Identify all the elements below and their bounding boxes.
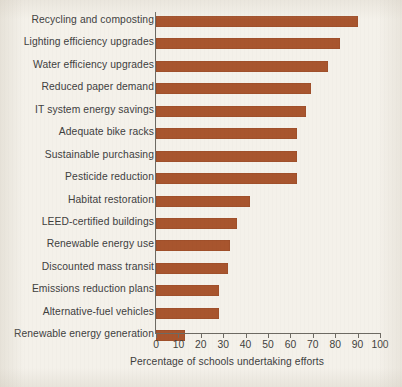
bar-track	[156, 263, 396, 274]
x-axis-tick	[290, 334, 291, 338]
bar-row: IT system energy savings	[0, 104, 402, 126]
bar	[156, 263, 228, 274]
bar-track	[156, 218, 396, 229]
bar	[156, 285, 219, 296]
category-label: Reduced paper demand	[4, 81, 154, 92]
x-axis-tick	[313, 334, 314, 338]
x-axis-tick	[178, 334, 179, 338]
category-label: Renewable energy use	[4, 238, 154, 249]
bar-row: Renewable energy use	[0, 238, 402, 260]
bar-track	[156, 151, 396, 162]
category-label: LEED-certified buildings	[4, 216, 154, 227]
category-label: Recycling and composting	[4, 14, 154, 25]
category-label: Discounted mass transit	[4, 261, 154, 272]
bar-row: Discounted mass transit	[0, 261, 402, 283]
bar	[156, 83, 311, 94]
category-label: Water efficiency upgrades	[4, 59, 154, 70]
x-axis-tick	[380, 334, 381, 338]
bar-row: Reduced paper demand	[0, 81, 402, 103]
category-label: Emissions reduction plans	[4, 283, 154, 294]
bar	[156, 308, 219, 319]
bar-row: Alternative-fuel vehicles	[0, 306, 402, 328]
bar	[156, 106, 306, 117]
bar	[156, 61, 328, 72]
bar-row: Lighting efficiency upgrades	[0, 36, 402, 58]
bar	[156, 196, 250, 207]
bar-row: Sustainable purchasing	[0, 149, 402, 171]
category-label: Pesticide reduction	[4, 171, 154, 182]
bar	[156, 38, 340, 49]
bar-track	[156, 61, 396, 72]
x-axis-title: Percentage of schools undertaking effort…	[0, 356, 402, 367]
bar-row: Pesticide reduction	[0, 171, 402, 193]
bar-row: Water efficiency upgrades	[0, 59, 402, 81]
bar-track	[156, 308, 396, 319]
bar-track	[156, 173, 396, 184]
x-axis-tick	[246, 334, 247, 338]
bar-row: Adequate bike racks	[0, 126, 402, 148]
x-axis-tick	[201, 334, 202, 338]
bar-track	[156, 83, 396, 94]
category-label: Alternative-fuel vehicles	[4, 306, 154, 317]
x-axis-tick-label: 100	[360, 339, 400, 351]
bar-track	[156, 285, 396, 296]
bar	[156, 240, 230, 251]
x-axis-tick	[223, 334, 224, 338]
chart-page: Recycling and compostingLighting efficie…	[0, 0, 402, 387]
bar-row: Emissions reduction plans	[0, 283, 402, 305]
category-label: Lighting efficiency upgrades	[4, 36, 154, 47]
bar-track	[156, 16, 396, 27]
bar-row: Habitat restoration	[0, 194, 402, 216]
horizontal-bar-chart: Recycling and compostingLighting efficie…	[0, 0, 402, 387]
category-label: Sustainable purchasing	[4, 149, 154, 160]
bar-track	[156, 38, 396, 49]
bar	[156, 218, 237, 229]
y-axis-line	[155, 12, 156, 334]
bar-track	[156, 196, 396, 207]
x-axis-tick	[156, 334, 157, 338]
category-label: IT system energy savings	[4, 104, 154, 115]
bar-track	[156, 240, 396, 251]
bar-row: Recycling and composting	[0, 14, 402, 36]
x-axis-tick	[335, 334, 336, 338]
bar	[156, 16, 358, 27]
bar-row: LEED-certified buildings	[0, 216, 402, 238]
x-axis-tick	[358, 334, 359, 338]
bar-rows: Recycling and compostingLighting efficie…	[0, 14, 402, 351]
x-axis-tick	[268, 334, 269, 338]
bar	[156, 173, 297, 184]
category-label: Habitat restoration	[4, 194, 154, 205]
bar	[156, 128, 297, 139]
category-label: Adequate bike racks	[4, 126, 154, 137]
bar-track	[156, 106, 396, 117]
bar	[156, 151, 297, 162]
category-label: Renewable energy generation	[4, 328, 154, 339]
bar-track	[156, 128, 396, 139]
